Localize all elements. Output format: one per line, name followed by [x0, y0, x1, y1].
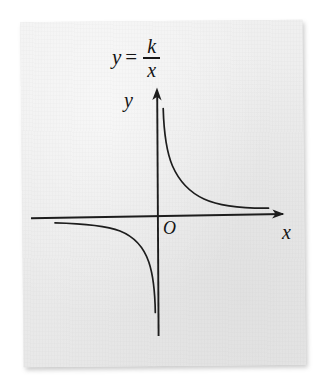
equation-numerator: k [144, 36, 159, 57]
equation-lhs: y [112, 47, 121, 68]
hyperbola-figure [0, 0, 323, 392]
equation-title: y = k x [112, 36, 160, 80]
x-axis-label: x [282, 222, 291, 242]
equation-fraction: k x [143, 36, 160, 80]
y-axis [152, 88, 161, 337]
origin-label: O [163, 219, 176, 237]
y-axis-label: y [124, 90, 133, 110]
curve-quadrant-one [163, 109, 268, 209]
equation-equals-sign: = [125, 47, 137, 68]
equation-denominator: x [144, 59, 159, 80]
curve-quadrant-three [55, 223, 155, 313]
screenshot-root: y = k x y x O [0, 0, 323, 392]
